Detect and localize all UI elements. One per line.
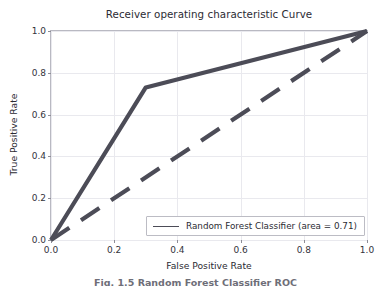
legend-entry-label: Random Forest Classifier (area = 0.71) bbox=[186, 221, 357, 231]
x-tick-mark bbox=[114, 240, 115, 243]
x-tick-label: 0.6 bbox=[233, 245, 247, 255]
y-tick-label: 0.8 bbox=[32, 68, 46, 78]
gridline-vertical bbox=[367, 31, 368, 240]
y-tick-label: 0.2 bbox=[32, 193, 46, 203]
chart-legend[interactable]: Random Forest Classifier (area = 0.71) bbox=[146, 216, 365, 236]
y-tick-label: 0.6 bbox=[32, 110, 46, 120]
x-tick-label: 0.0 bbox=[44, 245, 58, 255]
x-tick-label: 0.4 bbox=[170, 245, 184, 255]
curve-layer bbox=[51, 31, 367, 240]
x-tick-mark bbox=[177, 240, 178, 243]
legend-line-swatch bbox=[153, 226, 179, 227]
x-tick-label: 0.2 bbox=[107, 245, 121, 255]
y-tick-label: 0.4 bbox=[32, 151, 46, 161]
chance-diagonal-line bbox=[51, 31, 367, 240]
plot-area: True Positive Rate 0.00.20.40.60.81.0 0.… bbox=[50, 30, 368, 241]
roc-curve-figure: Receiver operating characteristic Curve … bbox=[0, 0, 391, 286]
x-tick-label: 0.8 bbox=[297, 245, 311, 255]
figure-caption: Fig. 1.5 Random Forest Classifier ROC bbox=[0, 277, 391, 286]
y-tick-label: 0.0 bbox=[32, 235, 46, 245]
y-axis-label: True Positive Rate bbox=[8, 54, 19, 214]
x-axis-label: False Positive Rate bbox=[50, 260, 368, 271]
gridline-horizontal bbox=[51, 240, 367, 241]
x-tick-mark bbox=[304, 240, 305, 243]
x-tick-label: 1.0 bbox=[360, 245, 374, 255]
y-tick-label: 1.0 bbox=[32, 26, 46, 36]
x-tick-mark bbox=[241, 240, 242, 243]
x-tick-mark bbox=[367, 240, 368, 243]
chart-title: Receiver operating characteristic Curve bbox=[50, 8, 368, 20]
